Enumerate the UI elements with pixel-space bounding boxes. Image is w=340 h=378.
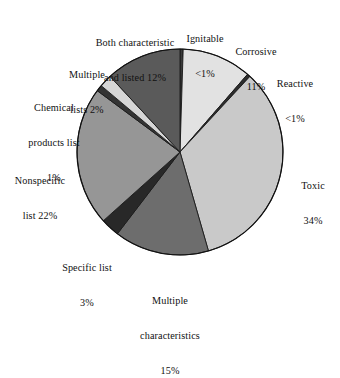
label-line-2: products list	[8, 137, 100, 149]
pie-label-toxic: Toxic 34%	[286, 157, 340, 250]
label-line-2: 34%	[286, 215, 340, 227]
label-line-1: Reactive	[254, 78, 336, 90]
label-line-3: 15%	[112, 365, 228, 377]
label-line-1: Multiple	[112, 295, 228, 307]
label-line-2: characteristics	[112, 330, 228, 342]
label-line-1: Chemical	[8, 102, 100, 114]
label-line-1: Nonspecific	[0, 175, 80, 187]
pie-label-reactive: Reactive <1%	[254, 55, 336, 148]
pie-label-multiple-characteristics: Multiple characteristics 15%	[112, 272, 228, 378]
pie-label-nonspecific-list: Nonspecific list 22%	[0, 152, 80, 245]
label-line-2: <1%	[254, 113, 336, 125]
label-line-2: list 22%	[0, 210, 80, 222]
label-line-1: Toxic	[286, 180, 340, 192]
